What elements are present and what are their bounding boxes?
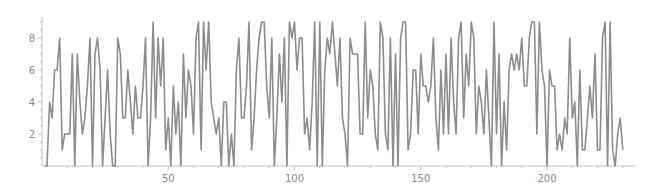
- y-tick-label: 8: [29, 33, 35, 44]
- x-tick-label: 50: [162, 173, 175, 184]
- y-tick-label: 4: [29, 97, 35, 108]
- y-tick-label: 2: [29, 129, 35, 140]
- x-tick-label: 150: [411, 173, 430, 184]
- y-tick-label: 6: [29, 65, 35, 76]
- x-tick-label: 100: [285, 173, 304, 184]
- line-chart: 501001502002468: [0, 0, 661, 192]
- data-series-line: [45, 22, 623, 166]
- x-tick-label: 200: [537, 173, 556, 184]
